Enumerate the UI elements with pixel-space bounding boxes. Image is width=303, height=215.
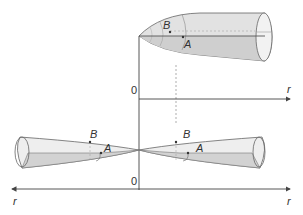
- top-point-a-label: A: [183, 38, 191, 50]
- left-point-b-label: B: [90, 128, 97, 140]
- diagram: B A 0 r B A B A 0 r r: [0, 0, 303, 215]
- right-point-a-label: A: [195, 142, 203, 154]
- bottom-left-horn: [15, 137, 139, 168]
- bottom-r-right-label: r: [287, 195, 292, 207]
- top-horn-shape: [139, 13, 272, 61]
- top-point-b-label: B: [163, 19, 170, 31]
- left-point-a-label: A: [103, 142, 111, 154]
- diagram-canvas: B A 0 r B A B A 0 r r: [0, 0, 303, 215]
- point-b-marker: [169, 31, 171, 33]
- right-point-b-label: B: [183, 128, 190, 140]
- bottom-origin-label: 0: [131, 175, 137, 187]
- top-r-label: r: [287, 83, 292, 95]
- bottom-r-left-label: r: [13, 195, 18, 207]
- top-origin-label: 0: [131, 84, 137, 96]
